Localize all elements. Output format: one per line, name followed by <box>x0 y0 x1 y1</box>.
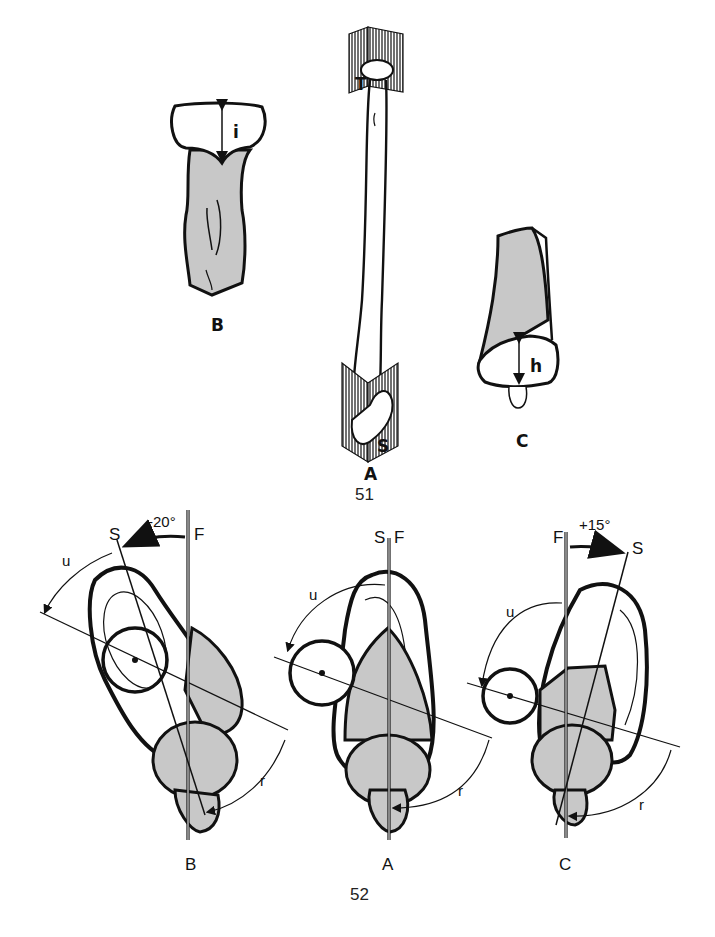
angle-label-plus-15: +15° <box>579 516 610 533</box>
arc-r-label-a: r <box>458 782 463 799</box>
fig51-panel-a: T S A <box>342 27 403 484</box>
fig52-b-label: B <box>185 855 196 874</box>
fig52-panel-c: +15° F S u r C <box>467 516 680 874</box>
arc-u-label-c: u <box>506 603 514 620</box>
axis-f-label-b: F <box>194 525 204 544</box>
axis-s-label-c: S <box>632 539 643 558</box>
arc-u-label-a: u <box>309 586 317 603</box>
axis-f-label-c: F <box>553 528 563 547</box>
arc-r-label-c: r <box>639 796 644 813</box>
fig52-c-label: C <box>559 855 571 874</box>
illustration-canvas: i B T S A h C 51 <box>0 0 715 937</box>
fig52-a-label: A <box>382 855 394 874</box>
plane-label-t: T <box>355 74 367 94</box>
fig51-b-label: B <box>211 315 224 335</box>
plane-label-s: S <box>377 436 389 456</box>
axis-f-label-a: F <box>394 528 404 547</box>
dimension-i-label: i <box>233 122 239 142</box>
axis-s-label-a: S <box>374 528 385 547</box>
dimension-h-label: h <box>530 356 542 376</box>
fig52-panel-a: S F u r A <box>274 528 492 874</box>
figure-51-number: 51 <box>355 485 374 504</box>
arc-u-label-b: u <box>62 552 70 569</box>
fig51-panel-b: i B <box>172 103 265 335</box>
axis-s-label-b: S <box>109 525 120 544</box>
fig51-c-label: C <box>516 431 528 451</box>
fig51-a-label: A <box>364 464 378 484</box>
figure-52-number: 52 <box>350 885 369 904</box>
angle-label-minus-20: -20° <box>148 513 176 530</box>
fig52-panel-b: -20° S F u r B <box>40 510 288 874</box>
fig51-panel-c: h C <box>478 228 558 451</box>
arc-r-label-b: r <box>260 772 265 789</box>
